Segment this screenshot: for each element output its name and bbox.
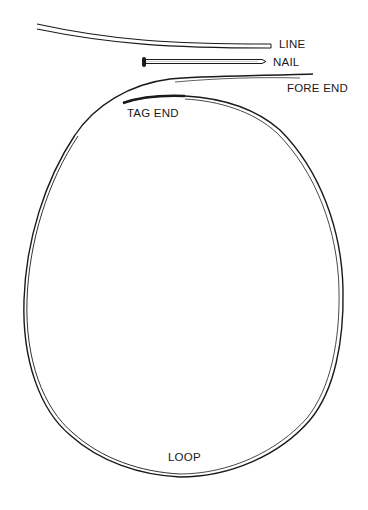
loop-label: LOOP <box>168 452 201 464</box>
fore-end-label: FORE END <box>287 83 348 95</box>
line-label: LINE <box>279 39 305 51</box>
knot-diagram <box>0 0 368 510</box>
nail-label: NAIL <box>273 57 299 69</box>
tag-end-label: TAG END <box>127 108 179 120</box>
nail-drawing <box>142 57 266 67</box>
loop-drawing <box>24 74 343 477</box>
line-drawing <box>37 24 271 48</box>
